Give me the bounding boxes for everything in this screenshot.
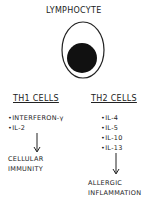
th2-outcome-label: ALLERGIC INFLAMMATION [88, 178, 165, 198]
th2-cells-heading: TH2 CELLS [91, 94, 137, 103]
th1-cells-heading: TH1 CELLS [13, 94, 59, 103]
lymphocyte-cell-illustration [0, 0, 165, 90]
th1-outcome-label: CELLULAR IMMUNITY [8, 154, 68, 174]
th1-down-arrow-icon [32, 132, 42, 154]
th2-cytokine-item: •IL-10 [101, 134, 123, 142]
cell-nucleus [67, 43, 97, 73]
th1-cytokine-item: •IL-2 [8, 124, 25, 132]
th2-down-arrow-icon [111, 152, 121, 176]
th1-cytokine-item: •INTERFERON-γ [8, 114, 64, 122]
th2-cytokine-item: •IL-13 [101, 144, 123, 152]
th2-cytokine-item: •IL-4 [101, 114, 118, 122]
th2-cytokine-item: •IL-5 [101, 124, 118, 132]
